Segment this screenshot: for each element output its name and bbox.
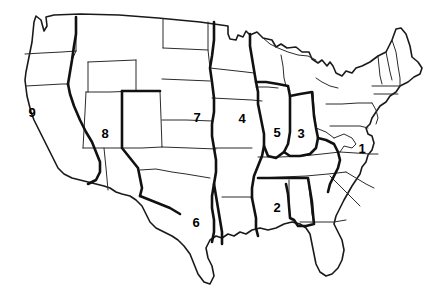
region-label-4: 4 xyxy=(238,112,245,125)
dakota-minnesota-line xyxy=(208,22,210,68)
wisconsin-illinois-line xyxy=(256,87,278,88)
us-region-map-figure: 1 2 3 4 5 6 7 8 9 xyxy=(0,0,441,289)
region-label-8: 8 xyxy=(101,127,108,140)
us-map-svg xyxy=(0,0,441,289)
oklahoma-texas-line xyxy=(140,169,210,178)
nebraska-kansas-line xyxy=(162,120,212,121)
newyork-vermont-line xyxy=(378,56,382,84)
colorado-south-line xyxy=(122,147,162,148)
kansas-oklahoma-line xyxy=(162,147,216,149)
lake-superior-edge xyxy=(263,38,316,60)
montana-wyoming-line xyxy=(88,60,136,62)
region-4-east-boundary xyxy=(250,34,264,198)
region-label-3: 3 xyxy=(297,127,304,140)
iowa-missouri-line xyxy=(212,98,262,101)
region-8-mountain-front xyxy=(122,91,142,196)
vermont-newhampshire-line xyxy=(386,52,392,80)
maine-newhampshire-line xyxy=(392,40,400,86)
north-south-dakota-line xyxy=(163,48,208,50)
region-2-boundary xyxy=(258,178,314,226)
georgia-florida-line xyxy=(300,220,346,222)
minnesota-iowa-line xyxy=(210,68,254,73)
oregon-california-line xyxy=(26,84,68,86)
region-7-east-boundary xyxy=(210,22,216,242)
lake-erie-edge xyxy=(316,78,338,88)
region-label-2: 2 xyxy=(273,201,280,214)
region-label-6: 6 xyxy=(192,216,199,229)
region-8-east-boundary xyxy=(68,17,76,84)
newyork-pennsylvania-line xyxy=(326,103,372,104)
washington-oregon-line xyxy=(25,51,76,54)
region-1-west-boundary xyxy=(318,138,340,192)
south-dakota-nebraska-line xyxy=(162,79,210,81)
region-label-1: 1 xyxy=(358,142,365,155)
nevada-utah-line xyxy=(83,92,86,148)
colorado-east-line xyxy=(160,91,162,147)
region-label-7: 7 xyxy=(193,111,200,124)
pennsylvania-maryland-line xyxy=(330,126,368,128)
region-6-west-boundary xyxy=(140,196,180,214)
region-label-5: 5 xyxy=(273,126,280,139)
arizona-newmexico-line xyxy=(104,148,108,190)
region-label-9: 9 xyxy=(28,106,35,119)
region-6-east-boundary xyxy=(214,184,222,244)
